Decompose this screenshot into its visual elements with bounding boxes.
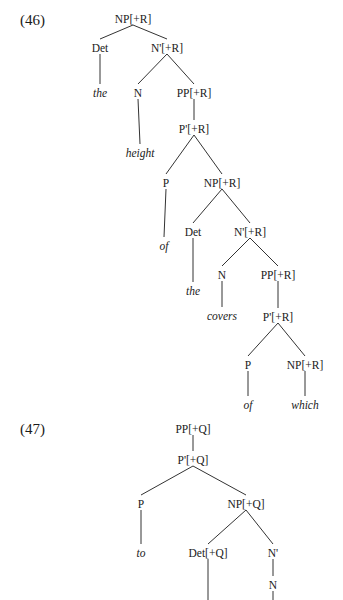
tree-node-label: P xyxy=(138,498,144,510)
tree-branch xyxy=(138,54,167,84)
tree-node-label: Det xyxy=(185,226,202,238)
tree-leaf-word: of xyxy=(244,399,255,412)
tree-node-label: Det[+Q] xyxy=(188,547,227,559)
tree-branch xyxy=(138,99,140,144)
tree-branch xyxy=(222,189,250,223)
tree-node-label: P xyxy=(163,177,169,189)
tree-branch xyxy=(222,238,250,266)
tree-branch xyxy=(167,54,194,84)
tree-node-label: PP[+R] xyxy=(261,269,296,281)
tree-node-label: NP[+R] xyxy=(204,177,241,189)
tree-node-label: NP[+R] xyxy=(115,13,152,25)
tree-node-label: N xyxy=(218,269,227,281)
tree-branch xyxy=(193,189,222,223)
tree-node-label: N'[+R] xyxy=(234,226,266,238)
tree-leaf-word: which xyxy=(291,399,319,411)
tree-branch xyxy=(248,323,278,356)
tree-node-label: N xyxy=(134,87,143,99)
tree-node-label: N xyxy=(269,579,278,591)
tree-branch xyxy=(166,135,194,174)
tree-node-label: P xyxy=(245,359,251,371)
tree-node-label: N' xyxy=(268,547,278,559)
tree-node-label: PP[+Q] xyxy=(175,423,210,435)
tree-branch xyxy=(133,25,167,39)
tree-node-label: PP[+R] xyxy=(177,87,212,99)
tree-leaf-word: to xyxy=(137,547,146,559)
tree-node-label: N'[+R] xyxy=(151,42,183,54)
tree-node-label: Det xyxy=(92,42,109,54)
tree-leaf-word: covers xyxy=(207,310,238,322)
tree-node-label: P'[+R] xyxy=(179,123,209,135)
tree-leaf-word: the xyxy=(186,285,200,297)
tree-node-label: P'[+Q] xyxy=(178,454,209,466)
tree-leaf-word: height xyxy=(126,147,156,160)
tree-branch xyxy=(208,510,246,544)
tree-leaf-word: of xyxy=(160,240,171,253)
tree-branch xyxy=(193,466,246,495)
tree-leaf-word: the xyxy=(93,87,107,99)
tree-branch xyxy=(250,238,278,266)
tree-branch xyxy=(164,189,166,237)
tree-branch xyxy=(194,135,222,174)
tree-branch xyxy=(278,323,305,356)
tree-branch xyxy=(246,510,273,544)
tree-node-label: P'[+R] xyxy=(263,311,293,323)
tree-branch xyxy=(100,25,133,39)
tree-node-label: NP[+Q] xyxy=(227,498,264,510)
tree-branch xyxy=(141,466,193,495)
tree-node-label: NP[+R] xyxy=(287,359,324,371)
syntax-tree-diagrams: NP[+R]DetN'[+R]theNPP[+R]heightP'[+R]PNP… xyxy=(0,0,343,600)
